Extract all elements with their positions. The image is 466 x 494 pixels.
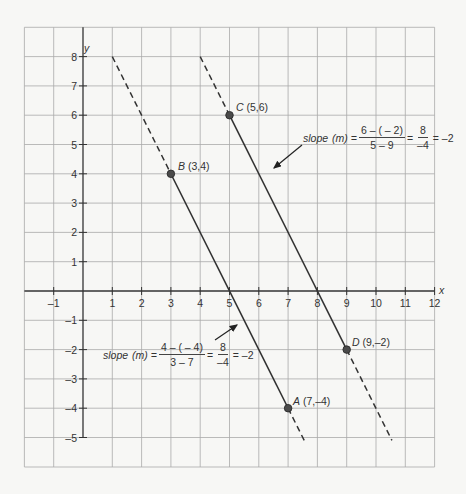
y-tick-label: –2 [65, 344, 77, 355]
x-tick-label: 3 [168, 298, 174, 309]
coordinate-plane [0, 0, 466, 494]
x-tick-label: –1 [48, 298, 60, 309]
point-d-label: D (9,–2) [352, 337, 390, 348]
point-b [167, 170, 175, 178]
x-tick-label: 12 [429, 298, 441, 309]
point-a-label: A (7,–4) [293, 396, 330, 407]
x-tick-label: 9 [344, 298, 350, 309]
y-axis-label: y [84, 43, 89, 54]
y-tick-label: 3 [71, 198, 77, 209]
y-tick-label: 8 [71, 51, 77, 62]
line-ab-dashed-lower [288, 408, 304, 440]
y-tick-label: 2 [71, 227, 77, 238]
slope-fraction: 4 – ( – 4) 3 – 7 [159, 341, 205, 368]
y-tick-label: 1 [71, 256, 77, 267]
x-tick-label: 5 [227, 298, 233, 309]
y-tick-label: –3 [65, 374, 77, 385]
slope-annotation-ab: slope (m) = 4 – ( – 4) 3 – 7 = 8 –4 = –2 [103, 341, 254, 368]
line-cd-dashed-lower [347, 350, 392, 441]
x-tick-label: 10 [370, 298, 382, 309]
slope-simplified-fraction: 8 –4 [215, 341, 231, 368]
x-tick-label: 2 [139, 298, 145, 309]
y-tick-label: –4 [65, 403, 77, 414]
x-tick-label: 6 [256, 298, 262, 309]
point-b-label: B (3,4) [178, 161, 210, 172]
x-tick-label: 8 [314, 298, 320, 309]
x-tick-label: 4 [197, 298, 203, 309]
y-tick-label: 6 [71, 110, 77, 121]
grid [24, 27, 434, 467]
slope-fraction: 6 – ( – 2) 5 – 9 [359, 124, 405, 151]
line-ab [112, 57, 304, 441]
point-d [343, 346, 351, 354]
point-c [226, 111, 234, 119]
slope-simplified-fraction: 8 –4 [415, 124, 431, 151]
x-tick-label: 7 [285, 298, 291, 309]
x-tick-label: 1 [109, 298, 115, 309]
y-tick-label: 7 [71, 81, 77, 92]
y-tick-label: –5 [65, 432, 77, 443]
y-tick-label: 4 [71, 169, 77, 180]
point-a [284, 404, 292, 412]
y-tick-label: –1 [65, 315, 77, 326]
x-tick-label: 11 [400, 298, 411, 309]
slope-annotation-cd: slope (m) = 6 – ( – 2) 5 – 9 = 8 –4 = –2 [303, 124, 454, 151]
y-tick-label: 5 [71, 139, 77, 150]
x-axis-label: x [439, 285, 444, 296]
point-c-label: C (5,6) [236, 102, 268, 113]
arrow-to-line-ab [215, 325, 237, 340]
